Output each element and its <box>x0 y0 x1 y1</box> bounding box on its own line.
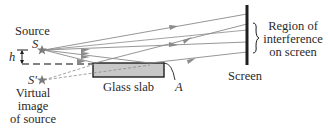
point-a-leader <box>164 63 175 80</box>
point-a-label: A <box>175 81 183 94</box>
source-star-icon <box>37 45 47 54</box>
glass-slab-label: Glass slab <box>103 81 154 94</box>
s-label: S <box>32 38 38 51</box>
virtual-line-3: of source <box>6 113 60 126</box>
virtual-image-label: Virtual image of source <box>6 87 60 126</box>
incident-rays <box>44 50 150 63</box>
region-line-3: on screen <box>258 46 328 59</box>
interference-region-label: Region of interference on screen <box>258 20 328 59</box>
glass-slab <box>93 63 164 77</box>
h-label: h <box>9 51 15 64</box>
arrow-icon <box>169 25 178 30</box>
reflected-rays <box>95 24 247 63</box>
screen-label: Screen <box>228 70 262 83</box>
virtual-source-star-icon <box>37 75 47 84</box>
